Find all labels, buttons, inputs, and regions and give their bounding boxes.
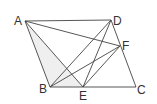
label-c: C (137, 83, 146, 97)
segment-dc (111, 20, 136, 87)
segment-fe (83, 46, 120, 87)
label-e: E (79, 89, 87, 103)
segment-ad (25, 20, 111, 21)
label-b: B (39, 82, 47, 96)
label-a: A (14, 14, 22, 28)
geometry-diagram: A D F B E C (0, 0, 157, 104)
label-f: F (122, 39, 129, 53)
label-d: D (113, 14, 122, 28)
